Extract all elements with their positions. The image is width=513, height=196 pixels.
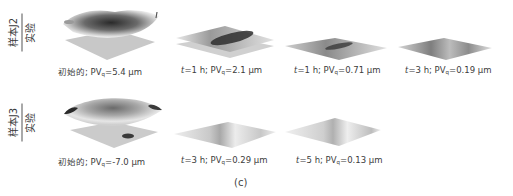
- surface-plot-j3-3h: [170, 118, 278, 150]
- figure-label: (c): [234, 177, 247, 188]
- caption-j2-3h: t=3 h; PVq=0.19 μm: [405, 65, 492, 75]
- caption-j2-1h: t=1 h; PVq=2.1 μm: [181, 65, 262, 75]
- caption-j2-1h-b: t=1 h; PVq=0.71 μm: [294, 65, 381, 75]
- surface-plot-j2-flat: [396, 36, 494, 62]
- surface: [398, 38, 492, 60]
- experiment-label: 实验: [23, 23, 37, 43]
- surface-plot-j2-ridge: [170, 18, 280, 60]
- surface-plot-j3-initial: [58, 92, 168, 150]
- row-label-sample-j3: 样本J3 实验: [8, 95, 37, 151]
- caption-j3-5h: t=5 h; PVq=0.13 μm: [296, 155, 383, 165]
- surface: [174, 122, 276, 148]
- row-label-sample-j2: 样本J2 实验: [8, 5, 37, 61]
- surface: [63, 10, 159, 37]
- surface-plot-j2-flat-ridge: [283, 36, 389, 62]
- caption-j2-initial: 初始的; PVq=5.4 μm: [58, 65, 142, 77]
- experiment-label: 实验: [23, 113, 37, 133]
- surface-plot-j3-5h: [283, 116, 383, 148]
- caption-j3-initial: 初始的; PVq=-7.0 μm: [58, 155, 145, 167]
- surface: [285, 118, 381, 146]
- sample-name: 样本J3: [8, 104, 23, 141]
- sample-name: 样本J2: [8, 14, 23, 51]
- surface: [64, 98, 162, 126]
- caption-j3-3h: t=3 h; PVq=0.29 μm: [181, 155, 268, 165]
- surface-plot-j2-initial: [55, 2, 165, 64]
